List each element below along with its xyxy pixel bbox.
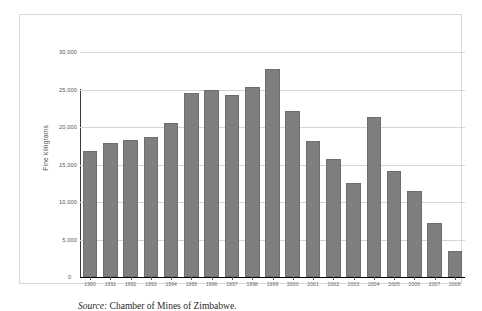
x-axis-ticks: 1990199119921993199419951996199719981999… — [80, 277, 465, 293]
bar-1991 — [103, 143, 118, 277]
x-tick-label-1996: 1996 — [206, 281, 218, 287]
x-tick-label-1990: 1990 — [84, 281, 96, 287]
x-tick-label-1991: 1991 — [105, 281, 117, 287]
bar-2004 — [367, 117, 382, 278]
x-tick-2004 — [374, 277, 375, 280]
x-tick-label-1997: 1997 — [226, 281, 238, 287]
x-tick-2001 — [313, 277, 314, 280]
x-tick-2005 — [394, 277, 395, 280]
x-tick-2008 — [455, 277, 456, 280]
plot-area — [80, 52, 465, 277]
x-tick-label-2005: 2005 — [388, 281, 400, 287]
x-tick-label-2007: 2007 — [429, 281, 441, 287]
bar-2003 — [346, 183, 361, 277]
bar-1999 — [265, 69, 280, 278]
x-tick-1998 — [252, 277, 253, 280]
y-axis-zero-label: 0 — [68, 274, 71, 280]
x-tick-1999 — [273, 277, 274, 280]
y-tick-label-10000: 10,000 — [59, 199, 77, 205]
x-tick-label-2006: 2006 — [409, 281, 421, 287]
y-tick-label-5000: 5,000 — [62, 237, 77, 243]
bar-1998 — [245, 87, 260, 277]
x-tick-1993 — [151, 277, 152, 280]
bar-1995 — [184, 93, 199, 278]
x-tick-2002 — [333, 277, 334, 280]
bar-1992 — [123, 140, 138, 277]
x-tick-label-2008: 2008 — [449, 281, 461, 287]
x-tick-label-1993: 1993 — [145, 281, 157, 287]
x-tick-label-1992: 1992 — [125, 281, 137, 287]
x-tick-label-2000: 2000 — [287, 281, 299, 287]
x-tick-label-1995: 1995 — [186, 281, 198, 287]
bar-2006 — [407, 191, 422, 277]
bar-2005 — [387, 171, 402, 278]
x-tick-label-2003: 2003 — [348, 281, 360, 287]
figure-frame: Fine kilograms 5,00010,00015,00020,00025… — [19, 14, 462, 284]
x-tick-label-2002: 2002 — [328, 281, 340, 287]
x-tick-label-1998: 1998 — [246, 281, 258, 287]
source-caption: Source: Chamber of Mines of Zimbabwe. — [78, 301, 236, 311]
x-tick-label-2004: 2004 — [368, 281, 380, 287]
x-tick-2003 — [354, 277, 355, 280]
x-tick-label-1999: 1999 — [267, 281, 279, 287]
bar-2001 — [306, 141, 321, 278]
y-axis-tick-labels: 5,00010,00015,00020,00025,00030,000 — [44, 52, 77, 277]
bar-1996 — [204, 90, 219, 278]
x-tick-1997 — [232, 277, 233, 280]
bar-1990 — [83, 151, 98, 277]
source-label: Source: — [78, 301, 107, 311]
source-text: Chamber of Mines of Zimbabwe. — [110, 301, 237, 311]
bar-2000 — [285, 111, 300, 278]
bar-1997 — [225, 95, 240, 277]
bar-2007 — [427, 223, 442, 277]
bar-1993 — [144, 137, 159, 277]
y-tick-label-15000: 15,000 — [59, 162, 77, 168]
bar-series — [80, 52, 465, 277]
bar-2008 — [448, 251, 463, 277]
x-tick-1996 — [212, 277, 213, 280]
y-tick-label-30000: 30,000 — [59, 49, 77, 55]
y-tick-label-25000: 25,000 — [59, 87, 77, 93]
bar-2002 — [326, 159, 341, 277]
bar-1994 — [164, 123, 179, 278]
x-tick-2000 — [293, 277, 294, 280]
x-tick-1991 — [110, 277, 111, 280]
y-tick-label-20000: 20,000 — [59, 124, 77, 130]
x-tick-1992 — [131, 277, 132, 280]
x-tick-2007 — [435, 277, 436, 280]
x-tick-1994 — [171, 277, 172, 280]
x-tick-1990 — [90, 277, 91, 280]
x-tick-1995 — [191, 277, 192, 280]
x-tick-2006 — [414, 277, 415, 280]
x-tick-label-2001: 2001 — [307, 281, 319, 287]
x-tick-label-1994: 1994 — [165, 281, 177, 287]
